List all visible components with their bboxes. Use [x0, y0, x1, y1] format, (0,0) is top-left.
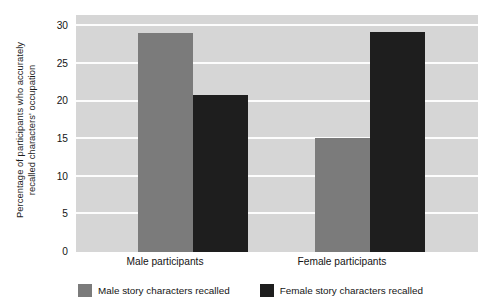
legend-item-male-story: Male story characters recalled: [78, 283, 230, 298]
legend-swatch-dark-icon: [260, 284, 274, 297]
legend-swatch-light-icon: [78, 284, 92, 297]
x-tick-label-female-participants: Female participants: [262, 256, 422, 268]
bar-male-participants-male-story: [138, 33, 193, 252]
legend-label-male-story: Male story characters recalled: [98, 285, 230, 296]
bar-chart-figure: Percentage of participants who accuratel…: [0, 0, 497, 304]
bar-female-participants-male-story: [315, 138, 370, 252]
chart-legend: Male story characters recalled Female st…: [78, 283, 423, 298]
y-axis-tick-labels: 0 5 10 15 20 25 30: [0, 0, 71, 304]
gridline-30: [76, 24, 478, 26]
x-tick-label-male-participants: Male participants: [85, 256, 245, 268]
y-tick-label-5: 5: [0, 209, 68, 219]
bar-male-participants-female-story: [193, 95, 248, 252]
legend-item-female-story: Female story characters recalled: [260, 283, 423, 298]
bar-female-participants-female-story: [370, 32, 425, 252]
legend-label-female-story: Female story characters recalled: [280, 285, 423, 296]
plot-area: [76, 15, 478, 252]
y-tick-label-10: 10: [0, 172, 68, 182]
y-tick-label-30: 30: [0, 21, 68, 31]
y-tick-label-25: 25: [0, 59, 68, 69]
y-tick-label-20: 20: [0, 96, 68, 106]
y-tick-label-0: 0: [0, 247, 68, 257]
x-axis-tick-labels: Male participants Female participants: [76, 256, 478, 274]
y-tick-label-15: 15: [0, 134, 68, 144]
